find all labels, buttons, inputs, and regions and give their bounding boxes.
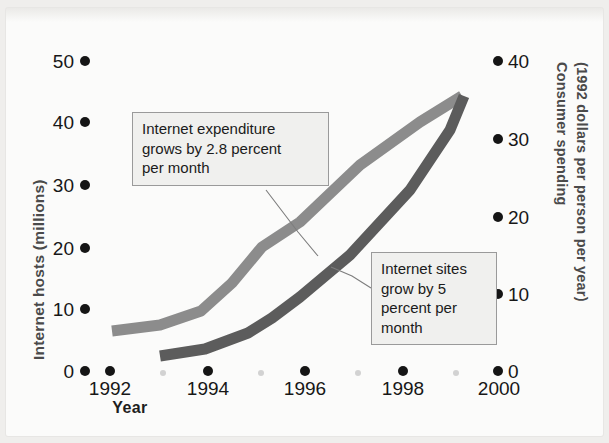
y-right-tick-label-10: 10 bbox=[508, 285, 548, 304]
annotation-expenditure: Internet expenditure grows by 2.8 percen… bbox=[132, 112, 329, 186]
y-left-tick-label-0: 0 bbox=[40, 362, 74, 381]
y-left-tick-label-40: 40 bbox=[40, 113, 74, 132]
annotation-sites-line3: percent per bbox=[381, 298, 488, 318]
x-axis-title: Year bbox=[95, 399, 165, 417]
y-left-tick-label-50: 50 bbox=[40, 52, 74, 71]
annotation-sites-line2: grow by 5 bbox=[381, 279, 488, 299]
x-tick-dot-1998 bbox=[398, 366, 408, 376]
y-right-tick-dot-0 bbox=[493, 366, 503, 376]
y-left-tick-dot-30 bbox=[80, 180, 90, 190]
x-tick-dot-1996 bbox=[300, 366, 310, 376]
y-right-tick-label-40: 40 bbox=[508, 52, 548, 71]
y-left-tick-dot-10 bbox=[80, 304, 90, 314]
y-axis-left-title: Internet hosts (millions) bbox=[30, 179, 48, 360]
y-left-tick-dot-50 bbox=[80, 56, 90, 66]
x-tick-dot-1997 bbox=[355, 370, 361, 376]
y-right-tick-label-30: 30 bbox=[508, 130, 548, 149]
y-left-tick-label-20: 20 bbox=[40, 239, 74, 258]
y-right-tick-label-20: 20 bbox=[508, 208, 548, 227]
y-left-tick-label-10: 10 bbox=[40, 300, 74, 319]
chart-figure: Internet hosts (millions) 50 40 30 20 10… bbox=[0, 0, 609, 443]
y-axis-right-title-line2: (1992 dollars per person per year) bbox=[574, 62, 590, 302]
x-tick-dot-1992 bbox=[105, 366, 115, 376]
annotation-sites: Internet sites grow by 5 percent per mon… bbox=[371, 252, 497, 345]
y-left-tick-dot-40 bbox=[80, 117, 90, 127]
y-right-tick-dot-30 bbox=[493, 134, 503, 144]
annotation-expenditure-line2: grows by 2.8 percent bbox=[142, 139, 320, 159]
y-right-tick-dot-40 bbox=[493, 56, 503, 66]
annotation-expenditure-line3: per month bbox=[142, 158, 320, 178]
annotation-sites-line4: month bbox=[381, 318, 488, 338]
annotation-sites-line1: Internet sites bbox=[381, 259, 488, 279]
x-tick-dot-1999 bbox=[453, 370, 459, 376]
y-left-tick-label-30: 30 bbox=[40, 176, 74, 195]
x-tick-label-1994: 1994 bbox=[173, 378, 243, 400]
annotation-expenditure-line1: Internet expenditure bbox=[142, 119, 320, 139]
x-tick-dot-1993 bbox=[160, 370, 166, 376]
x-tick-label-2000: 2000 bbox=[464, 378, 534, 400]
x-tick-dot-1994 bbox=[203, 366, 213, 376]
x-tick-label-1996: 1996 bbox=[270, 378, 340, 400]
x-tick-dot-1995 bbox=[258, 370, 264, 376]
y-axis-right-title-line1: Consumer spending bbox=[554, 62, 570, 206]
x-tick-label-1998: 1998 bbox=[368, 378, 438, 400]
x-tick-label-1992: 1992 bbox=[75, 378, 145, 400]
y-left-tick-dot-0 bbox=[80, 366, 90, 376]
y-right-tick-dot-20 bbox=[493, 212, 503, 222]
y-left-tick-dot-20 bbox=[80, 243, 90, 253]
